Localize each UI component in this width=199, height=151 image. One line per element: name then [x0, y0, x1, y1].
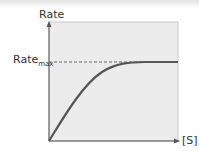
ratemax-label: Ratemax — [13, 54, 54, 65]
ratemax-main: Rate — [13, 53, 38, 66]
x-axis-label: [S] — [182, 135, 198, 146]
ratemax-subscript: max — [38, 60, 53, 68]
plot-area — [49, 22, 178, 141]
chart-plot — [0, 0, 199, 151]
y-axis-label: Rate — [39, 9, 64, 20]
